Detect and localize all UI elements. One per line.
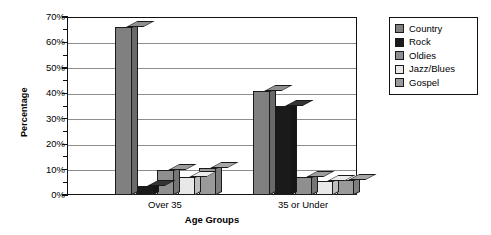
y-axis-tick — [62, 93, 68, 94]
legend-swatch-icon — [395, 24, 404, 33]
bar-group — [253, 17, 361, 195]
legend-item-gospel[interactable]: Gospel — [395, 76, 473, 90]
bar-oldies — [295, 177, 312, 195]
bar-country — [115, 27, 132, 195]
y-axis-tick-label: 60% — [31, 37, 65, 47]
y-axis-tick — [62, 67, 68, 68]
y-axis-tick-label: 30% — [31, 114, 65, 124]
legend-item-label: Jazz/Blues — [409, 64, 455, 74]
y-axis-tick-label: 70% — [31, 12, 65, 22]
bar-face — [316, 181, 333, 195]
bar-side — [174, 166, 180, 195]
bars-layer — [67, 17, 357, 195]
y-axis-tick — [62, 118, 68, 119]
y-axis-tick — [62, 194, 68, 195]
y-axis-minor-tick — [63, 106, 67, 107]
x-axis-group-label: Over 35 — [105, 199, 225, 210]
bar-side — [216, 165, 222, 195]
legend-item-label: Country — [409, 24, 442, 34]
y-axis-tick-label: 10% — [31, 165, 65, 175]
y-axis-tick-label: 0% — [31, 190, 65, 200]
y-axis-tick — [62, 42, 68, 43]
bar-side — [132, 24, 138, 195]
legend-swatch-icon — [395, 78, 404, 87]
legend-item-label: Oldies — [409, 51, 436, 61]
bar-face — [115, 27, 132, 195]
bar-side — [195, 174, 201, 195]
y-axis-tick-labels: 0%10%20%30%40%50%60%70% — [25, 0, 65, 235]
bar-top — [126, 21, 154, 27]
legend-swatch-icon — [395, 38, 404, 47]
bar-top — [210, 162, 238, 168]
bar-top — [168, 164, 196, 170]
bar-side — [270, 88, 276, 195]
y-axis-minor-tick — [63, 131, 67, 132]
x-axis-group-label: 35 or Under — [243, 199, 363, 210]
legend-item-label: Gospel — [409, 78, 439, 88]
y-axis-tick — [62, 16, 68, 17]
bar-face — [295, 177, 312, 195]
bar-side — [312, 174, 318, 195]
bar-top — [264, 85, 292, 91]
bar-top — [285, 100, 313, 106]
bar-group — [115, 17, 223, 195]
bar-rock — [274, 106, 291, 195]
y-axis-minor-tick — [63, 29, 67, 30]
y-axis-minor-tick — [63, 55, 67, 56]
bar-rock — [136, 186, 153, 195]
legend-item-country[interactable]: Country — [395, 22, 473, 36]
y-axis-tick-label: 50% — [31, 63, 65, 73]
legend-item-label: Rock — [409, 37, 431, 47]
bar-face — [253, 91, 270, 195]
bar-face — [337, 180, 354, 195]
bar-top — [306, 171, 334, 177]
y-axis-minor-tick — [63, 80, 67, 81]
y-axis-tick-label: 20% — [31, 139, 65, 149]
legend-item-rock[interactable]: Rock — [395, 36, 473, 50]
y-axis-minor-tick — [63, 182, 67, 183]
bar-jazz-blues — [178, 177, 195, 195]
bar-side — [291, 103, 297, 195]
bar-gospel — [337, 180, 354, 195]
bar-chart: Percentage 0%10%20%30%40%50%60%70% Age G… — [0, 0, 491, 235]
legend-item-jazz-blues[interactable]: Jazz/Blues — [395, 63, 473, 77]
bar-country — [253, 91, 270, 195]
y-axis-tick — [62, 169, 68, 170]
bar-face — [178, 177, 195, 195]
bar-face — [136, 186, 153, 195]
x-axis-title: Age Groups — [67, 214, 357, 225]
bar-jazz-blues — [316, 181, 333, 195]
legend-swatch-icon — [395, 65, 404, 74]
y-axis-minor-tick — [63, 156, 67, 157]
legend-item-oldies[interactable]: Oldies — [395, 49, 473, 63]
legend-swatch-icon — [395, 51, 404, 60]
y-axis-tick — [62, 144, 68, 145]
y-axis-tick-label: 40% — [31, 88, 65, 98]
legend: CountryRockOldiesJazz/BluesGospel — [389, 17, 478, 95]
bar-face — [274, 106, 291, 195]
